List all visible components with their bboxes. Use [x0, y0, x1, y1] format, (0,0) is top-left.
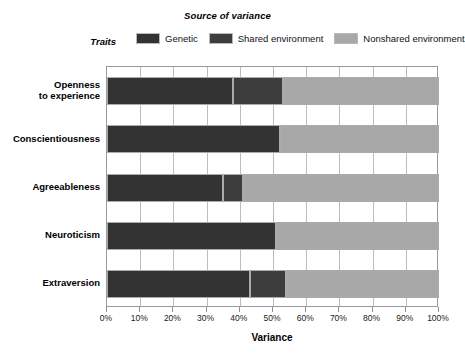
x-tick	[106, 307, 107, 312]
chart-header: Source of variance Traits Genetic Shared…	[0, 0, 455, 58]
x-tick	[405, 307, 406, 312]
bar-row	[107, 222, 437, 250]
bar-row	[107, 125, 437, 153]
bar-segment	[276, 222, 439, 250]
x-tick	[372, 307, 373, 312]
bar-row	[107, 174, 437, 202]
bar-segment	[107, 222, 276, 250]
legend-title: Source of variance	[0, 10, 455, 21]
x-axis-title: Variance	[106, 332, 438, 343]
legend-label-shared-environment: Shared environment	[238, 33, 324, 44]
legend-item-shared-environment: Shared environment	[209, 33, 324, 44]
x-tick	[438, 307, 439, 312]
legend-swatch-genetic	[136, 33, 160, 44]
y-axis-labels: Openness to experienceConscientiousnessA…	[0, 66, 100, 307]
x-tick-label: 100%	[418, 313, 458, 323]
bar-segment	[286, 270, 439, 298]
legend-swatch-shared-environment	[209, 33, 233, 44]
bar-segment	[107, 77, 233, 105]
x-tick	[272, 307, 273, 312]
y-axis-label-1: Conscientiousness	[0, 133, 100, 145]
legend-item-genetic: Genetic	[136, 33, 198, 44]
bar-segment	[243, 174, 439, 202]
x-tick	[206, 307, 207, 312]
bar-segment	[250, 270, 287, 298]
bar-segment	[283, 77, 439, 105]
bar-segment	[107, 174, 223, 202]
y-axis-label-3: Neuroticism	[0, 229, 100, 241]
legend-label-nonshared-environment: Nonshared environment	[363, 33, 464, 44]
x-axis-tick-labels: 0%10%20%30%40%50%60%70%80%90%100%	[106, 313, 438, 327]
legend-label-genetic: Genetic	[165, 33, 198, 44]
chart-legend: Genetic Shared environment Nonshared env…	[136, 33, 465, 44]
y-axis-label-4: Extraversion	[0, 277, 100, 289]
x-tick	[172, 307, 173, 312]
x-tick	[239, 307, 240, 312]
plot-area	[106, 66, 438, 307]
x-tick	[139, 307, 140, 312]
bar-segment	[280, 125, 439, 153]
y-axis-label-0: Openness to experience	[0, 79, 100, 102]
bars-layer	[107, 67, 437, 306]
legend-swatch-nonshared-environment	[334, 33, 358, 44]
bar-segment	[233, 77, 283, 105]
bar-row	[107, 77, 437, 105]
bar-row	[107, 270, 437, 298]
bar-segment	[107, 270, 250, 298]
bar-segment	[223, 174, 243, 202]
legend-item-nonshared-environment: Nonshared environment	[334, 33, 464, 44]
bar-segment	[107, 125, 280, 153]
x-tick	[338, 307, 339, 312]
x-tick	[305, 307, 306, 312]
y-axis-label-2: Agreeableness	[0, 181, 100, 193]
traits-axis-title: Traits	[46, 36, 116, 47]
